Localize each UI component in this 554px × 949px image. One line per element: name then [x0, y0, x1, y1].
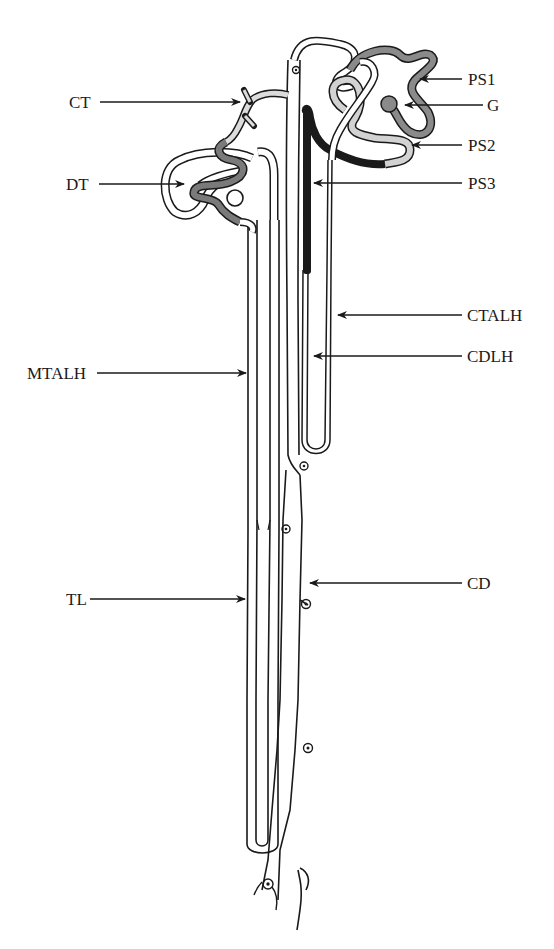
label-g: G	[487, 97, 499, 114]
label-cdlh: CDLH	[467, 348, 513, 365]
label-ps3: PS3	[468, 175, 495, 192]
distal-and-connecting-tubule	[165, 90, 288, 232]
label-cd: CD	[467, 575, 491, 592]
label-ctalh: CTALH	[467, 307, 522, 324]
glomerulus	[381, 96, 397, 112]
proximal-convoluted-tubule	[293, 41, 434, 165]
label-mtalh: MTALH	[27, 365, 86, 382]
ps3-segment	[303, 108, 311, 274]
nephron-diagram: CT DT MTALH TL PS1 G PS2 PS3 CTALH CDLH …	[0, 0, 554, 949]
long-loop-of-henle	[247, 220, 279, 853]
short-loop-of-henle	[302, 108, 332, 454]
label-ct: CT	[69, 94, 91, 111]
label-ps1: PS1	[468, 71, 495, 88]
label-dt: DT	[66, 176, 89, 193]
label-ps2: PS2	[468, 137, 495, 154]
label-tl: TL	[66, 591, 87, 608]
